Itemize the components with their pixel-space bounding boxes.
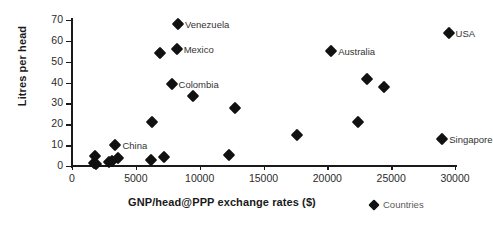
x-tick-label: 0 xyxy=(42,172,102,184)
x-tick-label: 10000 xyxy=(170,172,230,184)
data-point-label: China xyxy=(122,139,147,150)
y-tick-label: 50 xyxy=(33,55,63,67)
data-point-label: USA xyxy=(456,27,476,38)
data-point-label: Singapore xyxy=(449,133,492,144)
x-tick-label: 5000 xyxy=(106,172,166,184)
x-tick-label: 30000 xyxy=(425,172,485,184)
legend-label-countries: Countries xyxy=(383,199,424,210)
y-tick-label: 10 xyxy=(33,138,63,150)
chart-legend: Countries xyxy=(370,199,424,210)
y-tick-label: 60 xyxy=(33,34,63,46)
data-point-label: Colombia xyxy=(179,78,219,89)
x-tick-label: 25000 xyxy=(361,172,421,184)
y-tick-label: 40 xyxy=(33,76,63,88)
data-point-label: Mexico xyxy=(184,44,214,55)
data-point-label: Australia xyxy=(338,46,375,57)
x-axis-title: GNP/head@PPP exchange rates ($) xyxy=(128,196,316,208)
x-tick-label: 15000 xyxy=(234,172,294,184)
y-tick-label: 30 xyxy=(33,96,63,108)
y-tick-label: 20 xyxy=(33,117,63,129)
y-tick-label: 0 xyxy=(33,159,63,171)
diamond-marker-icon xyxy=(368,199,379,210)
x-tick-label: 20000 xyxy=(297,172,357,184)
x-tick xyxy=(455,165,456,170)
y-axis-title: Litres per head xyxy=(16,3,28,129)
y-tick-label: 70 xyxy=(33,13,63,25)
data-point-label: Venezuela xyxy=(185,19,229,30)
